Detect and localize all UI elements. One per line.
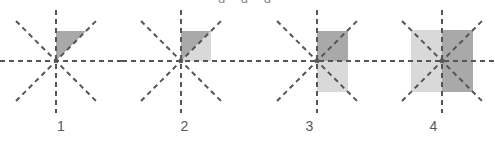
figure-item-3: 3 [247, 0, 372, 142]
figure-1-diagram [0, 0, 122, 118]
figure-1-label: 1 [0, 118, 122, 134]
figure-4-diagram [372, 0, 495, 118]
figure-item-4: 4 [372, 0, 495, 142]
figure-2-label: 2 [122, 118, 247, 134]
figure-4-label: 4 [372, 118, 495, 134]
symmetry-figures-panel: g g g 1 2 [0, 0, 495, 142]
figure-3-label: 3 [247, 118, 372, 134]
figure-item-1: 1 [0, 0, 122, 142]
figure-item-2: 2 [122, 0, 247, 142]
figure-2-diagram [122, 0, 247, 118]
figure-3-diagram [247, 0, 372, 118]
